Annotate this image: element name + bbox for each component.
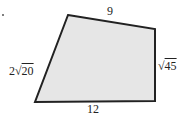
- bottom-side-label: 12: [87, 103, 99, 115]
- quadrilateral-figure: [0, 0, 187, 116]
- quadrilateral-shape: [35, 15, 155, 102]
- top-side-label: 9: [107, 5, 113, 17]
- left-radicand: 20: [22, 64, 34, 78]
- left-side-label: 2√20: [9, 65, 34, 77]
- marker-dot: [2, 14, 4, 16]
- right-radicand: 45: [165, 59, 177, 73]
- right-side-label: √45: [158, 60, 177, 72]
